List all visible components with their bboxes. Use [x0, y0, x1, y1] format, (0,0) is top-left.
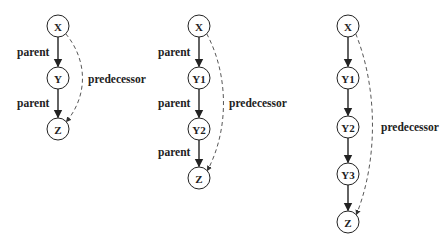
- node-z: Z: [337, 211, 359, 233]
- predecessor-edge: [207, 34, 224, 171]
- node-label: Y2: [341, 122, 355, 134]
- diagram-chain-two-intermediates: XY1Y2Zparentparentparentpredecessor: [158, 15, 287, 189]
- node-y2: Y2: [337, 116, 359, 138]
- diagram-chain-three-intermediates: XY1Y2Y3Zpredecessor: [337, 15, 439, 233]
- node-y2: Y2: [188, 118, 210, 140]
- parent-label: parent: [158, 97, 191, 110]
- node-label: Z: [344, 217, 351, 229]
- node-y1: Y1: [337, 67, 359, 89]
- predecessor-label: predecessor: [229, 97, 287, 110]
- node-label: X: [344, 21, 352, 33]
- parent-label: parent: [17, 97, 50, 110]
- parent-label: parent: [17, 46, 50, 59]
- node-z: Z: [47, 118, 69, 140]
- node-label: Y: [54, 73, 62, 85]
- parent-label: parent: [158, 146, 191, 159]
- node-label: X: [54, 21, 62, 33]
- node-y3: Y3: [337, 163, 359, 185]
- node-label: Z: [54, 124, 61, 136]
- predecessor-label: predecessor: [88, 73, 146, 86]
- node-label: Y1: [192, 73, 205, 85]
- node-x: X: [188, 15, 210, 37]
- node-z: Z: [188, 167, 210, 189]
- parent-label: parent: [158, 46, 191, 59]
- diagram-canvas: XYZparentparentpredecessor XY1Y2Zparentp…: [0, 0, 448, 241]
- node-y1: Y1: [188, 67, 210, 89]
- node-label: Y3: [341, 169, 355, 181]
- node-label: Y1: [341, 73, 354, 85]
- predecessor-label: predecessor: [381, 121, 439, 134]
- node-label: X: [195, 21, 203, 33]
- node-label: Z: [195, 173, 202, 185]
- node-y: Y: [47, 67, 69, 89]
- node-label: Y2: [192, 124, 206, 136]
- diagram-chain-one-intermediate: XYZparentparentpredecessor: [17, 15, 146, 140]
- node-x: X: [47, 15, 69, 37]
- node-x: X: [337, 15, 359, 37]
